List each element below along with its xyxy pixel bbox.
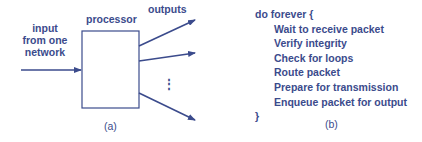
output-arrow-3 [139,93,195,120]
step-5: Prepare for transmission [255,80,407,95]
processor-label: processor [86,13,137,25]
input-label-line-2: from one [20,34,70,46]
ellipsis: ⋮ [163,78,175,90]
step-1: Wait to receive packet [255,22,407,37]
loop-open: do forever { [255,7,407,22]
output-arrow-2 [139,53,195,61]
input-label: input from one network [20,22,70,58]
step-3: Check for loops [255,51,407,66]
input-label-line-1: input [20,22,70,34]
step-2: Verify integrity [255,36,407,51]
output-arrow-1 [139,20,195,46]
outputs-label: outputs [148,3,187,15]
step-6: Enqueue packet for output [255,95,407,110]
caption-a: (a) [104,120,117,132]
caption-b: (b) [325,118,338,130]
input-label-line-3: network [20,46,70,58]
processor-box [82,31,139,108]
pseudocode-block: do forever { Wait to receive packet Veri… [255,7,407,124]
step-4: Route packet [255,65,407,80]
